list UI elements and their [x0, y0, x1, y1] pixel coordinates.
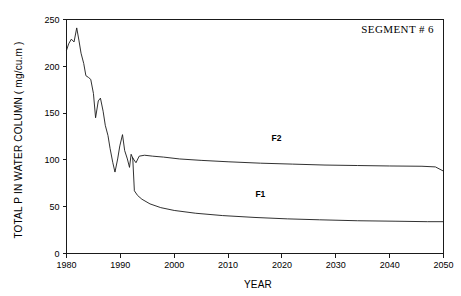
x-axis-title: YEAR — [244, 279, 272, 290]
series-label-F1: F1 — [255, 189, 265, 199]
chart-figure: 050100150200250 198019902000201020202030… — [0, 0, 461, 296]
x-tick-label: 2030 — [326, 260, 346, 270]
x-tick-label: 2020 — [272, 260, 292, 270]
y-tick-label: 0 — [54, 249, 59, 259]
y-tick-label: 150 — [44, 108, 59, 118]
chart-background — [0, 0, 461, 296]
x-tick-label: 2000 — [164, 260, 184, 270]
x-tick-label: 1990 — [110, 260, 130, 270]
series-label-F2: F2 — [272, 133, 282, 143]
x-tick-label: 2040 — [380, 260, 400, 270]
line-chart-canvas: 050100150200250 198019902000201020202030… — [0, 0, 461, 296]
x-tick-label: 2010 — [218, 260, 238, 270]
y-axis-title: TOTAL P IN WATER COLUMN ( mg/cu.m ) — [13, 41, 24, 238]
x-tick-label: 1980 — [56, 260, 76, 270]
y-tick-label: 250 — [44, 15, 59, 25]
segment-annotation: SEGMENT # 6 — [361, 23, 434, 35]
y-tick-label: 50 — [49, 202, 59, 212]
y-tick-label: 100 — [44, 155, 59, 165]
x-tick-label: 2050 — [433, 260, 453, 270]
y-tick-label: 200 — [44, 62, 59, 72]
